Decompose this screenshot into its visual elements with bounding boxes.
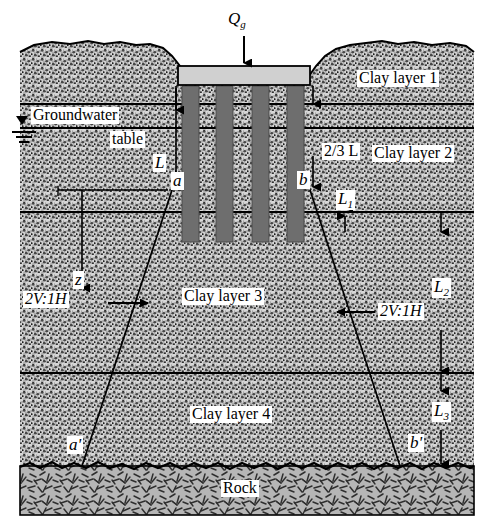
two-thirds-length-label: 2/3 L	[322, 143, 360, 160]
pile-cap	[178, 66, 310, 85]
depth-z-label: z	[73, 271, 84, 289]
pile-3	[252, 86, 269, 242]
pile-group-settlement-figure: Qg Clay layer 1 Groundwater table L a 2/…	[0, 0, 493, 527]
groundwater-table-label-line2: table	[110, 131, 145, 148]
stress-spread-left-label: 2V:1H	[23, 291, 69, 308]
point-a-prime-label: a'	[67, 436, 83, 454]
point-a-label: a	[171, 172, 184, 190]
pile-length-label: L	[153, 154, 166, 172]
pile-1	[182, 86, 199, 242]
point-b-prime-label: b'	[408, 434, 424, 452]
groundwater-table-label-line1: Groundwater	[31, 107, 119, 124]
load-label: Qg	[228, 10, 246, 30]
pile-4	[287, 86, 304, 242]
clay-layer-3-label: Clay layer 3	[182, 288, 264, 305]
rock-label: Rock	[221, 480, 259, 497]
sublayer-2-label: L2	[432, 278, 451, 298]
sublayer-1-label: L1	[336, 190, 355, 210]
clay-layer-2-label: Clay layer 2	[372, 145, 454, 162]
sublayer-3-label: L3	[432, 402, 451, 422]
pile-2	[216, 86, 233, 242]
stress-spread-right-label: 2V:1H	[378, 303, 424, 320]
point-b-label: b	[297, 171, 310, 189]
clay-layer-1-label: Clay layer 1	[357, 70, 439, 87]
clay-layer-4-label: Clay layer 4	[190, 406, 272, 423]
